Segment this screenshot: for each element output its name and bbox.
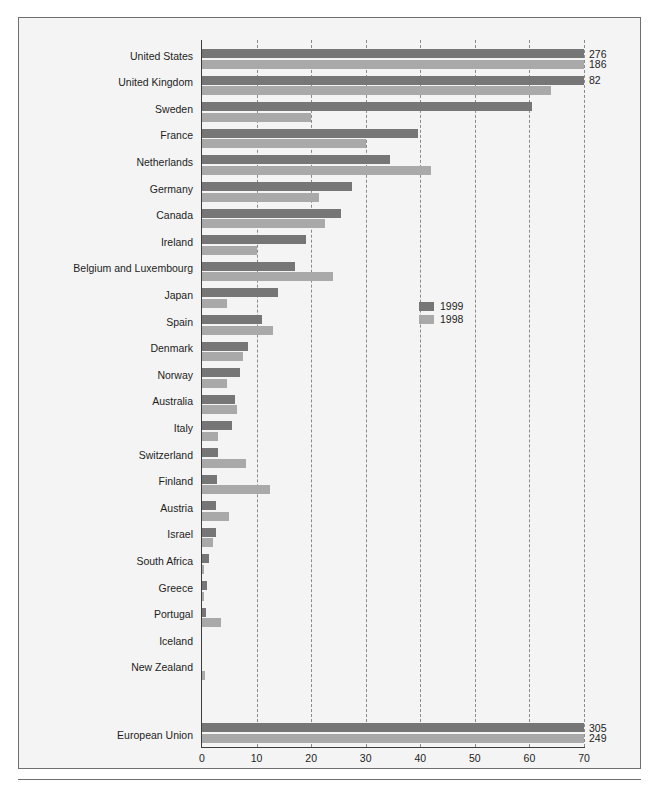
- category-label-portugal: Portugal: [19, 609, 193, 620]
- category-label-germany: Germany: [19, 184, 193, 195]
- category-label-norway: Norway: [19, 370, 193, 381]
- category-label-sweden: Sweden: [19, 104, 193, 115]
- gridline-x-40: [420, 40, 421, 747]
- chart-frame: 010203040506070United States276186United…: [18, 17, 641, 769]
- category-label-austria: Austria: [19, 503, 193, 514]
- x-tick-label-0: 0: [182, 753, 222, 764]
- value-label-1999-united-kingdom: 82: [589, 75, 601, 86]
- bar-1998-ireland: [202, 246, 257, 255]
- x-tick-label-40: 40: [400, 753, 440, 764]
- bar-1999-united-states: [202, 49, 584, 58]
- legend-swatch-1998: [419, 315, 434, 324]
- gridline-x-30: [366, 40, 367, 747]
- chart-legend: 19991998: [419, 301, 463, 327]
- bar-1998-norway: [202, 379, 227, 388]
- bar-1999-denmark: [202, 342, 248, 351]
- legend-item-1999: 1999: [419, 301, 463, 312]
- bar-1998-italy: [202, 432, 218, 441]
- x-tick-label-10: 10: [237, 753, 277, 764]
- category-label-canada: Canada: [19, 210, 193, 221]
- bar-1999-belgium-and-luxembourg: [202, 262, 295, 271]
- bar-1999-israel: [202, 528, 216, 537]
- legend-item-1998: 1998: [419, 314, 463, 325]
- gridline-x-50: [475, 40, 476, 747]
- bar-1998-portugal: [202, 618, 221, 627]
- bar-1999-portugal: [202, 608, 206, 617]
- bar-1998-switzerland: [202, 459, 246, 468]
- category-label-ireland: Ireland: [19, 237, 193, 248]
- bar-1998-finland: [202, 485, 270, 494]
- bar-1999-greece: [202, 581, 207, 590]
- bar-1998-austria: [202, 512, 229, 521]
- gridline-x-70: [584, 40, 585, 747]
- category-label-south-africa: South Africa: [19, 556, 193, 567]
- bar-1999-germany: [202, 182, 352, 191]
- bar-1999-european-union: [202, 723, 584, 732]
- bar-1998-netherlands: [202, 166, 431, 175]
- footer-divider-rule: [18, 779, 641, 780]
- bar-1998-sweden: [202, 113, 311, 122]
- bar-1998-japan: [202, 299, 227, 308]
- bar-1998-australia: [202, 405, 237, 414]
- bar-1999-austria: [202, 501, 216, 510]
- x-tick-label-30: 30: [346, 753, 386, 764]
- bar-1998-denmark: [202, 352, 243, 361]
- bar-1998-united-kingdom: [202, 86, 551, 95]
- bar-1998-greece: [202, 592, 204, 601]
- category-label-finland: Finland: [19, 476, 193, 487]
- bar-1999-norway: [202, 368, 240, 377]
- category-label-iceland: Iceland: [19, 636, 193, 647]
- legend-label-1999: 1999: [440, 301, 463, 312]
- category-label-united-kingdom: United Kingdom: [19, 77, 193, 88]
- bar-1999-netherlands: [202, 155, 390, 164]
- value-label-1998-european-union: 249: [589, 733, 607, 744]
- bar-1998-germany: [202, 193, 319, 202]
- category-label-italy: Italy: [19, 423, 193, 434]
- x-tick-label-70: 70: [564, 753, 604, 764]
- category-label-spain: Spain: [19, 317, 193, 328]
- category-label-netherlands: Netherlands: [19, 157, 193, 168]
- bar-1999-united-kingdom: [202, 76, 584, 85]
- x-tick-label-50: 50: [455, 753, 495, 764]
- bar-1999-france: [202, 129, 418, 138]
- category-label-switzerland: Switzerland: [19, 450, 193, 461]
- bar-1999-switzerland: [202, 448, 218, 457]
- bar-1999-italy: [202, 421, 232, 430]
- category-label-denmark: Denmark: [19, 343, 193, 354]
- category-label-european-union: European Union: [19, 730, 193, 741]
- bar-1999-spain: [202, 315, 262, 324]
- bar-1999-australia: [202, 395, 235, 404]
- bar-1998-canada: [202, 219, 325, 228]
- bar-1999-sweden: [202, 102, 532, 111]
- bar-1998-france: [202, 139, 366, 148]
- chart-page: 010203040506070United States276186United…: [0, 0, 659, 807]
- bar-1998-european-union: [202, 734, 584, 743]
- bar-1999-canada: [202, 209, 341, 218]
- x-axis-baseline: [201, 747, 585, 748]
- x-tick-label-20: 20: [291, 753, 331, 764]
- legend-label-1998: 1998: [440, 314, 463, 325]
- category-label-israel: Israel: [19, 529, 193, 540]
- bar-1999-ireland: [202, 235, 306, 244]
- category-label-australia: Australia: [19, 396, 193, 407]
- category-label-france: France: [19, 130, 193, 141]
- category-label-belgium-and-luxembourg: Belgium and Luxembourg: [19, 263, 193, 274]
- bar-1998-new-zealand: [202, 671, 205, 680]
- bar-1998-spain: [202, 326, 273, 335]
- bar-1998-south-africa: [202, 565, 204, 574]
- bar-1998-belgium-and-luxembourg: [202, 272, 333, 281]
- bar-1998-united-states: [202, 60, 584, 69]
- bar-1999-japan: [202, 288, 278, 297]
- category-label-new-zealand: New Zealand: [19, 662, 193, 673]
- bar-1999-finland: [202, 475, 217, 484]
- category-label-united-states: United States: [19, 51, 193, 62]
- bar-1998-israel: [202, 538, 213, 547]
- x-tick-label-60: 60: [509, 753, 549, 764]
- chart-plot-area: 010203040506070United States276186United…: [19, 18, 642, 770]
- gridline-x-60: [529, 40, 530, 747]
- value-label-1998-united-states: 186: [589, 59, 607, 70]
- category-label-japan: Japan: [19, 290, 193, 301]
- bar-1999-south-africa: [202, 554, 209, 563]
- category-label-greece: Greece: [19, 583, 193, 594]
- legend-swatch-1999: [419, 302, 434, 311]
